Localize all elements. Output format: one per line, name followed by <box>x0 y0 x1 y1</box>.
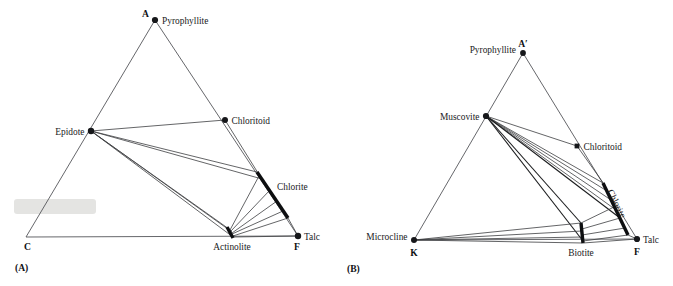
apex-label-b-left-k: K <box>410 247 418 258</box>
phase-label-epidote-a: Epidote <box>55 127 84 137</box>
apex-label-b-right-f: F <box>634 246 640 257</box>
phase-bar-chlorite-a <box>257 172 288 218</box>
panel-caption-a: (A) <box>15 262 28 274</box>
figure-canvas: Pyrophyllite Chloritoid Epidote Chlorite… <box>0 0 673 286</box>
panel-a-tie-lines <box>91 120 298 237</box>
panel-b-tie-lines <box>414 116 637 243</box>
apex-label-a-top: A <box>142 8 149 19</box>
phase-bar-biotite-b <box>581 223 583 243</box>
phase-dot-pyrophyllite-b <box>520 50 526 56</box>
phase-dot-chloritoid-a <box>222 117 228 123</box>
phase-dot-chloritoid-b <box>575 144 580 149</box>
phase-label-pyrophyllite-a: Pyrophyllite <box>162 16 208 26</box>
phase-label-biotite-b: Biotite <box>568 248 594 258</box>
apex-label-a-left-c: C <box>24 241 31 252</box>
scan-smudge-artifact <box>14 199 96 214</box>
phase-label-chlorite-b: Chlorite <box>605 188 627 220</box>
phase-label-chloritoid-b: Chloritoid <box>584 142 623 152</box>
panel-a-group: Pyrophyllite Chloritoid Epidote Chlorite… <box>15 8 320 274</box>
phase-dot-epidote-a <box>88 128 94 134</box>
acf-akf-figure: Pyrophyllite Chloritoid Epidote Chlorite… <box>0 0 673 286</box>
phase-label-talc-a: Talc <box>304 232 320 242</box>
panel-b-group: Pyrophyllite Muscovite Chloritoid Chlori… <box>347 38 659 275</box>
phase-dot-talc-b <box>634 236 640 242</box>
phase-label-microcline-b: Microcline <box>366 232 407 242</box>
phase-label-muscovite-b: Muscovite <box>440 112 480 122</box>
phase-label-pyrophyllite-b: Pyrophyllite <box>470 45 516 55</box>
phase-label-chlorite-a: Chlorite <box>277 182 308 192</box>
phase-dot-muscovite-b <box>483 113 489 119</box>
phase-label-actinolite-a: Actinolite <box>213 242 251 252</box>
apex-label-a-right-f: F <box>294 241 300 252</box>
panel-caption-b: (B) <box>347 263 360 275</box>
phase-dot-pyrophyllite-a <box>152 17 158 23</box>
phase-dot-talc-a <box>295 233 301 239</box>
phase-dot-microcline-b <box>411 237 417 243</box>
apex-label-b-top-aprime: A′ <box>518 38 528 49</box>
phase-label-chloritoid-a: Chloritoid <box>232 116 271 126</box>
phase-label-talc-b: Talc <box>643 235 659 245</box>
